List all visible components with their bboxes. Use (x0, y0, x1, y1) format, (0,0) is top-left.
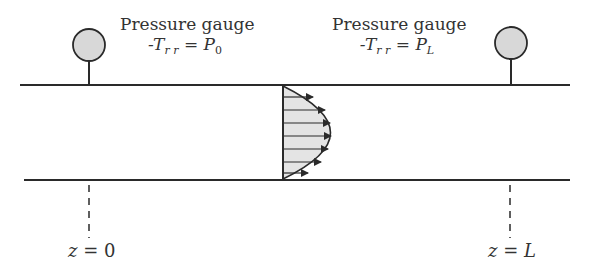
gauge-equation-right: -Tr r = PL (332, 34, 462, 61)
gauge-title-right: Pressure gauge (332, 14, 462, 34)
pressure-gauge-left-icon (73, 29, 105, 85)
gauge-label-left: Pressure gauge -Tr r = P0 (120, 14, 250, 61)
gauge-equation-left: -Tr r = P0 (120, 34, 250, 61)
pipe-diagram (0, 0, 589, 273)
gauge-title-left: Pressure gauge (120, 14, 250, 34)
position-label-zL: z = L (488, 240, 536, 261)
gauge-label-right: Pressure gauge -Tr r = PL (332, 14, 462, 61)
pressure-gauge-right-icon (495, 27, 527, 85)
position-label-z0: z = 0 (68, 240, 115, 261)
velocity-profile-icon (283, 86, 331, 179)
